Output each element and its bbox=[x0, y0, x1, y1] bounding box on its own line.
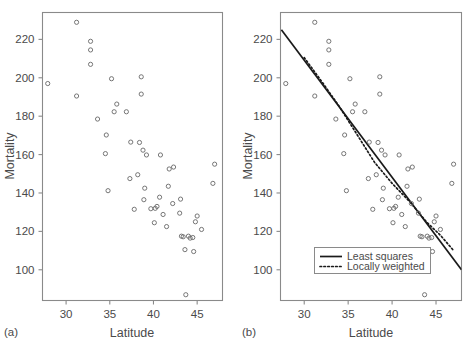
data-point bbox=[405, 184, 409, 188]
data-point bbox=[161, 212, 165, 216]
data-point bbox=[366, 176, 370, 180]
data-point bbox=[383, 153, 387, 157]
data-point bbox=[430, 249, 434, 253]
data-point bbox=[342, 152, 346, 156]
data-point bbox=[213, 162, 217, 166]
x-tick-label: 45 bbox=[430, 308, 443, 320]
y-tick-label: 140 bbox=[15, 187, 34, 199]
data-point bbox=[112, 110, 116, 114]
data-point bbox=[88, 39, 92, 43]
data-point bbox=[106, 189, 110, 193]
data-point bbox=[178, 197, 182, 201]
data-point bbox=[313, 94, 317, 98]
data-point bbox=[136, 173, 140, 177]
data-point bbox=[183, 248, 187, 252]
data-point bbox=[164, 224, 168, 228]
data-point bbox=[88, 62, 92, 66]
data-point bbox=[144, 153, 148, 157]
x-tick-label: 40 bbox=[386, 308, 399, 320]
x-axis-ticks-b: 30354045 bbox=[298, 301, 443, 320]
data-point bbox=[143, 186, 147, 190]
data-point bbox=[438, 227, 442, 231]
data-point bbox=[103, 152, 107, 156]
data-point bbox=[378, 92, 382, 96]
data-point bbox=[430, 235, 434, 239]
y-tick-label: 160 bbox=[253, 149, 272, 161]
data-point bbox=[139, 92, 143, 96]
x-axis-ticks-a: 30354045 bbox=[60, 301, 204, 320]
legend-b: Least squares Locally weighted bbox=[315, 248, 431, 274]
data-point bbox=[191, 235, 195, 239]
data-point bbox=[167, 167, 171, 171]
data-point bbox=[353, 102, 357, 106]
data-point bbox=[403, 224, 407, 228]
data-point bbox=[166, 184, 170, 188]
panel-a: 100120140160180200220 30354045 Latitude … bbox=[0, 0, 234, 343]
data-point bbox=[137, 140, 141, 144]
data-point bbox=[132, 207, 136, 211]
data-point bbox=[184, 293, 188, 297]
data-point bbox=[195, 214, 199, 218]
data-point bbox=[378, 75, 382, 79]
data-point bbox=[432, 220, 436, 224]
data-points-a bbox=[46, 20, 217, 297]
data-point bbox=[95, 117, 99, 121]
y-tick-label: 120 bbox=[15, 225, 34, 237]
data-point bbox=[367, 140, 371, 144]
data-point bbox=[451, 162, 455, 166]
data-point bbox=[171, 201, 175, 205]
data-point bbox=[381, 186, 385, 190]
data-point bbox=[313, 20, 317, 24]
data-point bbox=[371, 207, 375, 211]
data-point bbox=[363, 110, 367, 114]
data-point bbox=[139, 75, 143, 79]
data-point bbox=[124, 110, 128, 114]
x-axis-title-a: Latitude bbox=[110, 326, 155, 340]
y-tick-label: 160 bbox=[15, 149, 34, 161]
locally-weighted-line bbox=[304, 58, 453, 251]
y-tick-label: 200 bbox=[253, 72, 272, 84]
data-point bbox=[417, 197, 421, 201]
data-point bbox=[74, 20, 78, 24]
y-axis-title-a: Mortality bbox=[3, 132, 17, 180]
panel-a-svg: 100120140160180200220 30354045 Latitude … bbox=[0, 0, 234, 343]
x-tick-label: 35 bbox=[342, 308, 355, 320]
y-tick-label: 180 bbox=[253, 110, 272, 122]
data-point bbox=[88, 48, 92, 52]
panel-label-b: (b) bbox=[242, 326, 256, 338]
y-tick-label: 140 bbox=[253, 187, 272, 199]
data-point bbox=[327, 39, 331, 43]
data-point bbox=[193, 220, 197, 224]
data-point bbox=[327, 62, 331, 66]
figure-container: 100120140160180200220 30354045 Latitude … bbox=[0, 0, 468, 343]
data-point bbox=[152, 221, 156, 225]
data-point bbox=[380, 198, 384, 202]
data-point bbox=[350, 110, 354, 114]
data-point bbox=[374, 173, 378, 177]
y-tick-label: 100 bbox=[15, 264, 34, 276]
data-point bbox=[192, 249, 196, 253]
data-point bbox=[343, 133, 347, 137]
data-point bbox=[129, 140, 133, 144]
data-point bbox=[423, 293, 427, 297]
data-point bbox=[171, 165, 175, 169]
panel-b: 100120140160180200220 30354045 Least squ… bbox=[234, 0, 468, 343]
data-point bbox=[104, 133, 108, 137]
data-point bbox=[46, 81, 50, 85]
data-point bbox=[109, 77, 113, 81]
y-axis-title-b: Mortality bbox=[241, 132, 255, 180]
data-point bbox=[391, 221, 395, 225]
y-tick-label: 180 bbox=[15, 110, 34, 122]
y-axis-ticks-b: 100120140160180200220 bbox=[253, 33, 280, 275]
panel-b-svg: 100120140160180200220 30354045 Least squ… bbox=[234, 0, 468, 343]
x-tick-label: 30 bbox=[60, 308, 73, 320]
data-point bbox=[211, 181, 215, 185]
data-point bbox=[344, 189, 348, 193]
data-point bbox=[158, 153, 162, 157]
x-tick-label: 40 bbox=[147, 308, 160, 320]
data-point bbox=[141, 148, 145, 152]
y-tick-label: 220 bbox=[253, 33, 272, 45]
data-point bbox=[450, 181, 454, 185]
panel-label-a: (a) bbox=[4, 326, 18, 338]
data-point bbox=[410, 165, 414, 169]
